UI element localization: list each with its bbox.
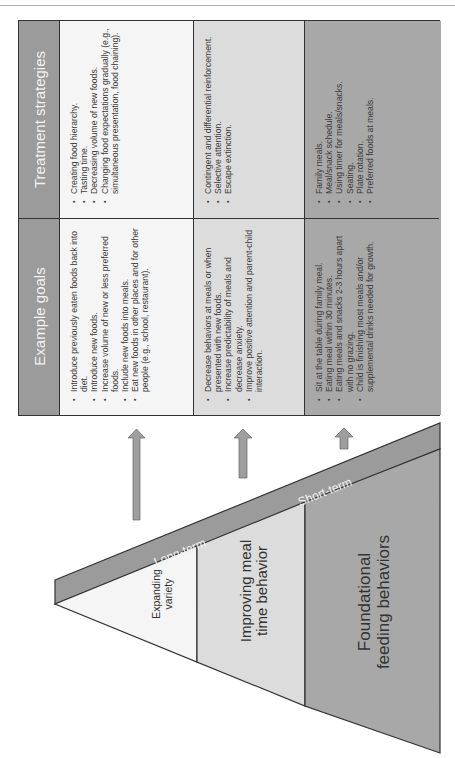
arrow-up-icon [234, 429, 252, 478]
level-label-line: feeding behaviors [374, 512, 393, 692]
level-label-line: variety [162, 554, 174, 634]
level-label-line: Foundational [355, 512, 374, 692]
level-label-line: Improving meal [238, 516, 254, 666]
level-label-line: Expanding [150, 554, 162, 634]
arrow-up-icon [335, 428, 353, 449]
level-label-foundational: Foundational feeding behaviors [355, 512, 393, 692]
level-label-line: time behavior [254, 516, 270, 666]
level-label-expanding-variety: Expanding variety [150, 554, 174, 634]
level-label-improving-meal-time: Improving meal time behavior [238, 516, 270, 666]
arrow-up-icon [128, 429, 145, 520]
